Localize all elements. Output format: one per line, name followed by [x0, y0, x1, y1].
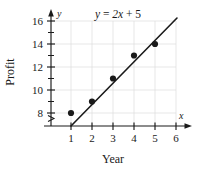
chart-canvas: 16 14 12 10 8 1 2 3 4 5 6 y x y = 2x + 5…: [0, 0, 198, 172]
data-point: [89, 98, 95, 104]
x-axis-title: Year: [102, 152, 124, 166]
equation-label: y = 2x + 5: [94, 8, 141, 21]
x-tick-label-6: 6: [173, 132, 179, 144]
x-tick-label-3: 3: [110, 132, 116, 144]
y-axis-arrowhead: [48, 9, 54, 17]
y-tick-label-12: 12: [32, 61, 43, 73]
y-tick-label-8: 8: [38, 107, 44, 119]
equation-intercept: 5: [135, 8, 141, 20]
data-point: [110, 75, 116, 81]
data-point: [152, 41, 158, 47]
y-tick-label-14: 14: [32, 38, 44, 50]
x-tick-label-1: 1: [68, 132, 74, 144]
data-point: [131, 52, 137, 58]
x-tick-label-2: 2: [89, 132, 95, 144]
data-point: [68, 110, 74, 116]
y-axis-title: Profit: [3, 58, 17, 86]
y-axis-variable-label: y: [56, 8, 62, 19]
x-tick-label-5: 5: [152, 132, 158, 144]
equation-plus: +: [123, 8, 135, 20]
x-tick-label-4: 4: [131, 132, 137, 144]
equation-equals: =: [100, 8, 112, 20]
axes: [44, 16, 186, 126]
regression-line: [71, 18, 177, 126]
y-tick-label-10: 10: [32, 84, 44, 96]
x-axis-arrowhead: [185, 123, 193, 129]
profit-vs-year-chart: 16 14 12 10 8 1 2 3 4 5 6 y x y = 2x + 5…: [0, 0, 198, 172]
x-axis-variable-label: x: [178, 110, 184, 121]
y-tick-label-16: 16: [32, 15, 44, 27]
